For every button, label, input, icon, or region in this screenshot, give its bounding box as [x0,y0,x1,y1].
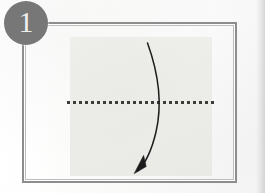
step-number-label: 1 [19,7,34,37]
page-gutter-shadow [256,0,265,193]
step-number-badge: 1 [4,1,48,45]
instruction-page: 1 [0,0,265,193]
paper-sheet [70,37,212,176]
fold-line-dashed [67,101,215,104]
